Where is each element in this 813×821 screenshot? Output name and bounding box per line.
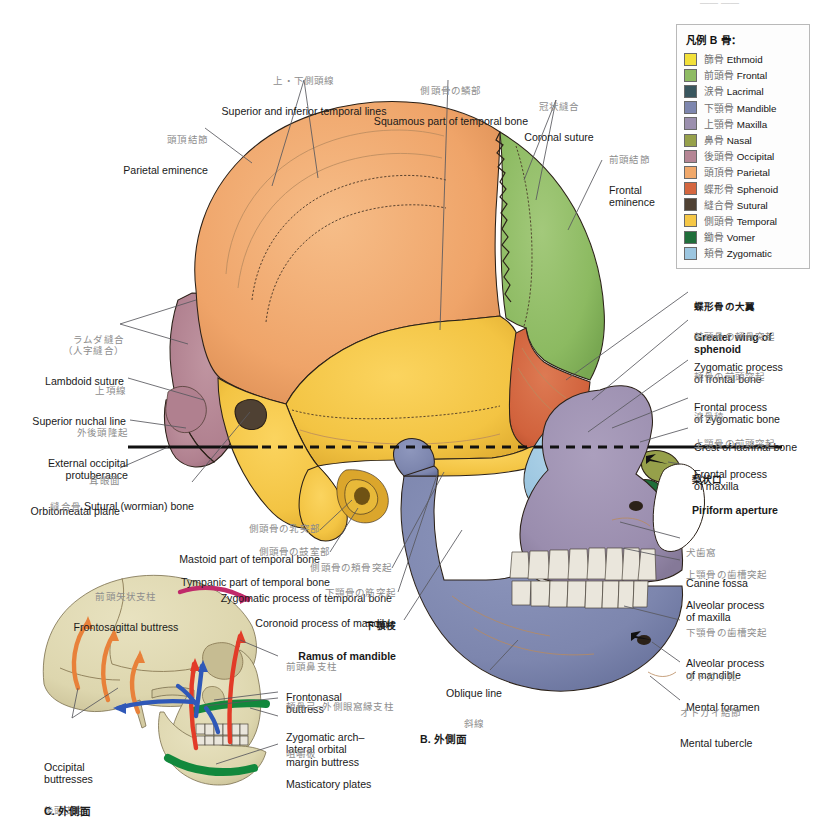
upper-teeth bbox=[510, 548, 656, 580]
label-frontosagittal-buttress: 前頭矢状支柱 Frontosagittal buttress bbox=[58, 572, 194, 652]
figure-c-caption: C. 外側面 bbox=[44, 786, 91, 821]
label-frontal-eminence: 前頭結節 Frontal eminence bbox=[609, 135, 679, 228]
lower-teeth bbox=[512, 581, 648, 608]
label-coronal-suture: 冠状縫合 Coronal suture bbox=[516, 82, 602, 162]
label-mental-tubercle: オトガイ結節 Mental tubercle bbox=[680, 688, 804, 768]
label-piriform-aperture: 梨状口 Piriform aperture bbox=[692, 455, 812, 535]
label-masticatory-plates: 咀嚼板 Masticatory plates bbox=[286, 729, 410, 809]
label-parietal-eminence: 頭頂結節 Parietal eminence bbox=[60, 115, 208, 195]
figure-b-caption: B. 外側面 bbox=[420, 714, 467, 764]
